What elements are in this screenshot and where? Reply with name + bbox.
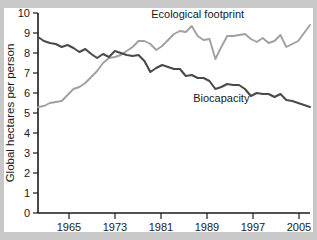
biocapacity-line [38,37,310,107]
y-tick-label-7: 7 [24,67,30,79]
chart-figure: 10 9 8 7 6 5 4 3 2 1 0 1965 1973 1981 19… [0,0,317,240]
x-axis-ticks [69,213,299,219]
y-tick-label-8: 8 [24,47,30,59]
y-axis-title: Global hectares per person [4,44,16,183]
ecological-footprint-label: Ecological footprint [151,8,244,20]
y-tick-label-5: 5 [24,107,30,119]
x-tick-label-1981: 1981 [149,221,173,233]
y-tick-label-10: 10 [18,7,30,19]
x-tick-label-1973: 1973 [103,221,127,233]
y-tick-label-3: 3 [24,147,30,159]
y-tick-label-0: 0 [24,207,30,219]
y-tick-label-1: 1 [24,187,30,199]
y-tick-label-9: 9 [24,27,30,39]
x-tick-label-1997: 1997 [241,221,265,233]
biocapacity-label: Biocapacity [193,92,250,104]
x-tick-label-1965: 1965 [57,221,81,233]
y-tick-label-6: 6 [24,87,30,99]
x-tick-label-2005: 2005 [287,221,311,233]
line-chart-svg: 10 9 8 7 6 5 4 3 2 1 0 1965 1973 1981 19… [0,0,317,240]
x-tick-label-1989: 1989 [195,221,219,233]
y-tick-label-4: 4 [24,127,30,139]
y-tick-label-2: 2 [24,167,30,179]
